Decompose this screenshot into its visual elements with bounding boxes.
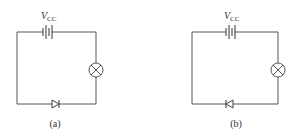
battery-icon [226,25,235,39]
battery-icon [43,25,52,39]
vcc-label-b: VCC [224,10,240,23]
lamp-icon [271,63,285,77]
caption-a: (a) [49,118,60,130]
caption-b: (b) [230,118,242,130]
diode-forward-icon [52,100,59,108]
vcc-label-a: VCC [41,10,57,23]
lamp-icon [89,63,103,77]
circuit-figure: VCC (a) VCC [0,0,296,138]
circuit-a: VCC (a) [17,10,103,130]
circuit-b: VCC (b) [192,10,285,130]
diode-reverse-icon [226,100,233,108]
